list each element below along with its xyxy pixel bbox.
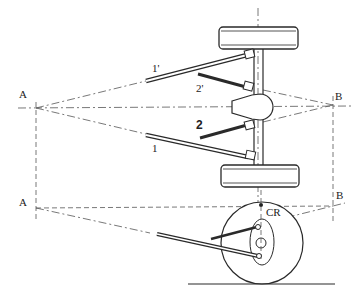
- link-2-prime: [198, 74, 254, 91]
- label-point-a-top: A: [19, 88, 27, 100]
- horizontal-centerline: [18, 106, 352, 108]
- label-link-2-prime: 2': [196, 82, 204, 94]
- line-b-upper: [263, 90, 333, 105]
- top-view: A B 1' 2' 2 1: [18, 8, 352, 222]
- side-line-a: [36, 208, 150, 233]
- label-point-b-top: B: [335, 90, 342, 102]
- link-2: [200, 120, 255, 138]
- label-link-1-prime: 1': [152, 62, 160, 74]
- suspension-diagram: A B 1' 2' 2 1 A B: [0, 0, 362, 300]
- wheel: [221, 202, 303, 284]
- label-point-b-side: B: [336, 189, 343, 201]
- label-link-2: 2: [196, 118, 203, 132]
- differential-housing: [232, 94, 273, 120]
- label-point-a-side: A: [19, 196, 27, 208]
- tire-upper: [219, 27, 298, 49]
- line-a-lower: [36, 108, 150, 135]
- side-horizontal-line: [36, 206, 333, 208]
- side-view: A B CR: [19, 189, 345, 284]
- label-roll-center: CR: [266, 206, 281, 218]
- label-link-1: 1: [152, 142, 158, 154]
- tire-lower: [221, 165, 299, 187]
- line-a-upper: [36, 80, 150, 108]
